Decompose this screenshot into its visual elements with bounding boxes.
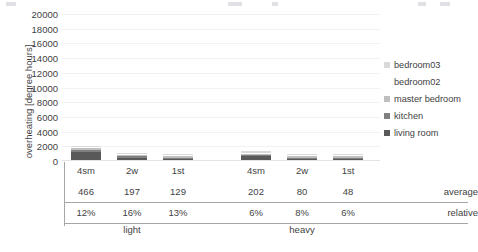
chart-legend: bedroom03bedroom02master bedroomkitchenl… <box>384 56 478 141</box>
gridline <box>62 58 380 59</box>
gridline <box>62 43 380 44</box>
gridline <box>62 29 380 30</box>
bar-segment <box>117 158 147 160</box>
category-label: 1st <box>318 165 378 176</box>
bar-stack <box>163 154 193 160</box>
y-axis-tick: 12000 <box>32 69 58 79</box>
data-table: 4sm2w1st4sm2w1st average 466197129202804… <box>0 162 478 252</box>
legend-item-label: bedroom02 <box>394 77 440 87</box>
table-vline <box>64 162 65 226</box>
legend-swatch-icon <box>384 62 390 68</box>
table-cell: 48 <box>318 186 378 197</box>
bar-stack <box>71 146 101 160</box>
row-label-relative: relative <box>416 207 478 218</box>
bar-segment <box>333 159 363 160</box>
y-axis-tick-labels: 2000018000160001400012000100008000600040… <box>12 10 58 162</box>
legend-item-label: bedroom03 <box>394 60 440 70</box>
bar-stack <box>287 154 317 160</box>
legend-swatch-icon <box>384 79 390 85</box>
table-row: average 4661971292028048 <box>0 182 478 203</box>
legend-item-label: kitchen <box>394 111 423 121</box>
gridline <box>62 117 380 118</box>
x-axis-line <box>62 160 380 161</box>
legend-item[interactable]: kitchen <box>384 107 478 124</box>
y-axis-tick: 6000 <box>37 113 58 123</box>
y-axis-tick: 14000 <box>32 54 58 64</box>
legend-swatch-icon <box>384 113 390 119</box>
table-hline <box>64 202 468 203</box>
group-label-row: lightheavy <box>0 224 478 240</box>
table-row: relative 12%16%13%6%8%6% <box>0 203 478 224</box>
table-cell: 129 <box>148 186 208 197</box>
legend-item[interactable]: bedroom02 <box>384 73 478 90</box>
y-axis-tick: 8000 <box>37 98 58 108</box>
category-label: 1st <box>148 165 208 176</box>
legend-swatch-icon <box>384 130 390 136</box>
gridline <box>62 73 380 74</box>
bar-segment <box>287 159 317 160</box>
bar-stack <box>241 151 271 160</box>
cropped-top-artifact <box>0 0 478 9</box>
legend-item-label: living room <box>394 128 438 138</box>
y-axis-tick: 10000 <box>32 84 58 94</box>
legend-item[interactable]: master bedroom <box>384 90 478 107</box>
gridline <box>62 88 380 89</box>
y-axis-tick: 4000 <box>37 128 58 138</box>
bar-stack <box>117 153 147 160</box>
y-axis-tick: 16000 <box>32 39 58 49</box>
category-label-row: 4sm2w1st4sm2w1st <box>0 165 478 181</box>
plot-area <box>62 14 380 161</box>
y-axis-tick: 2000 <box>37 142 58 152</box>
table-cell: 13% <box>148 207 208 218</box>
gridline <box>62 132 380 133</box>
legend-item[interactable]: bedroom03 <box>384 56 478 73</box>
chart-container: overheating [degree hours] 2000018000160… <box>0 0 478 252</box>
gridline <box>62 146 380 147</box>
bar-segment <box>163 159 193 160</box>
legend-swatch-icon <box>384 96 390 102</box>
bar-segment <box>71 152 101 160</box>
gridline <box>62 102 380 103</box>
group-label: light <box>92 224 172 235</box>
legend-item[interactable]: living room <box>384 124 478 141</box>
row-label-average: average <box>416 186 478 197</box>
bar-stack <box>333 154 363 160</box>
group-label: heavy <box>262 224 342 235</box>
gridline <box>62 14 380 15</box>
table-cell: 6% <box>318 207 378 218</box>
y-axis-tick: 18000 <box>32 25 58 35</box>
y-axis-tick: 20000 <box>32 10 58 20</box>
bar-segment <box>241 156 271 160</box>
legend-item-label: master bedroom <box>394 94 461 104</box>
